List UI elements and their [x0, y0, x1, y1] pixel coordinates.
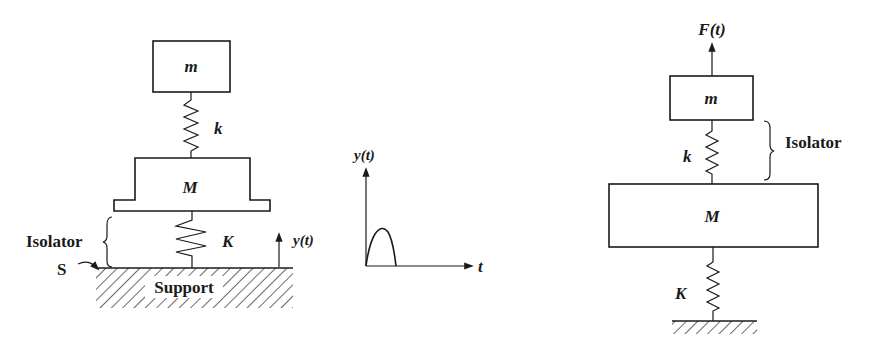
isolator-brace [764, 121, 774, 180]
force-label: F(t) [697, 20, 725, 39]
mass-M-label: M [703, 207, 720, 226]
excitation-label: y(t) [291, 232, 314, 249]
spring-k [706, 120, 718, 184]
spring-K-label: K [674, 284, 688, 303]
y-axis-label: y(t) [352, 147, 375, 164]
left-system: m k M K Isolator S Support y(t) [26, 41, 314, 308]
right-system: F(t) m k Isolator M K [609, 20, 842, 334]
vibration-isolation-diagram: m k M K Isolator S Support y(t) y(t) t [0, 0, 890, 348]
spring-K [707, 247, 719, 321]
mass-m-label: m [704, 89, 717, 108]
ground-hatch [672, 321, 757, 334]
spring-k-label: k [214, 119, 223, 138]
x-axis-label: t [478, 257, 484, 276]
mass-m-label: m [184, 57, 197, 76]
support-point-label: S [57, 260, 66, 279]
spring-k-label: k [683, 147, 692, 166]
spring-K [176, 211, 206, 268]
spring-K-label: K [221, 232, 235, 251]
isolator-label: Isolator [26, 232, 83, 251]
mass-M-label: M [181, 178, 198, 197]
half-sine-pulse [366, 228, 396, 266]
pulse-graph: y(t) t [352, 147, 484, 276]
support-point-arrow [78, 262, 96, 267]
spring-k [184, 92, 198, 158]
isolator-brace [103, 217, 112, 267]
support-label: Support [154, 278, 214, 297]
isolator-label: Isolator [785, 133, 842, 152]
